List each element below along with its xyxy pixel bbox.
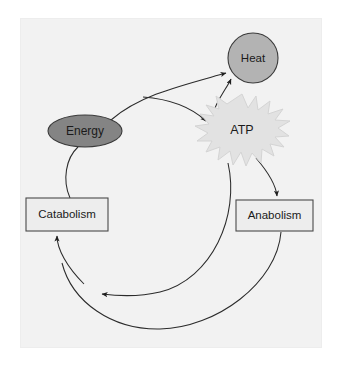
node-catabolism: Catabolism: [26, 198, 108, 231]
node-anabolism: Anabolism: [236, 200, 313, 231]
anabolism-label: Anabolism: [248, 209, 302, 221]
heat-label: Heat: [241, 52, 266, 64]
edge-atp-recycle-arc: [102, 163, 231, 296]
edge-anabolism-return-arc: [62, 232, 281, 329]
edge-atp-to-anabolism: [256, 158, 277, 196]
atp-label: ATP: [230, 123, 253, 137]
diagram-canvas: ATP Heat Energy Catabolism Anabolism: [0, 0, 342, 366]
edge-cycle-to-catabolism: [57, 236, 84, 284]
energy-label: Energy: [66, 124, 104, 138]
node-atp: ATP: [195, 94, 290, 166]
edge-energy-to-atp: [143, 97, 206, 121]
node-energy: Energy: [48, 115, 122, 147]
edge-catabolism-to-energy: [66, 147, 78, 198]
edge-energy-to-heat: [111, 73, 226, 120]
atp-cycle-diagram: ATP Heat Energy Catabolism Anabolism: [0, 0, 342, 366]
node-heat: Heat: [228, 33, 278, 83]
catabolism-label: Catabolism: [38, 208, 96, 220]
